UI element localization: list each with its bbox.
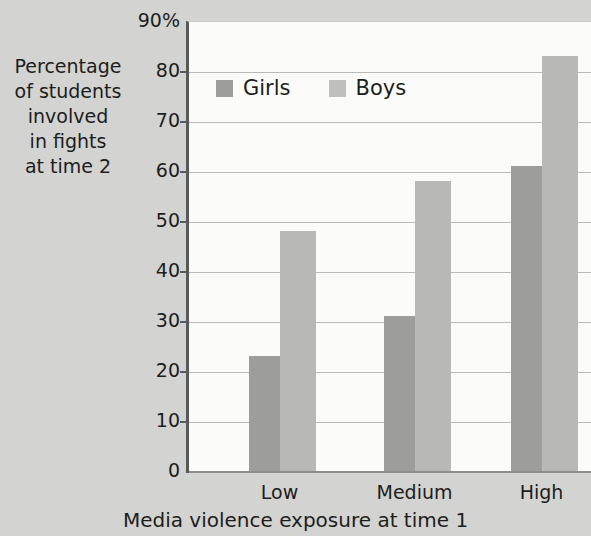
y-axis-tick-label: 50 <box>108 211 180 230</box>
y-axis-tick-label: 70 <box>108 111 180 130</box>
legend-label-girls: Girls <box>243 78 291 99</box>
legend-item-girls: Girls <box>216 78 291 99</box>
bar-chart-figure: Percentage of students involved in fight… <box>0 0 591 536</box>
y-axis-tick-label: 0 <box>108 461 180 480</box>
y-axis-tick-label: 60 <box>108 161 180 180</box>
bar-girls-high <box>511 166 542 471</box>
legend-swatch-girls-icon <box>216 80 233 97</box>
x-axis-tick-label: Low <box>226 481 333 503</box>
y-axis-tick-label: 30 <box>108 311 180 330</box>
bar-girls-medium <box>384 316 415 471</box>
bar-girls-low <box>249 356 280 471</box>
legend-swatch-boys-icon <box>329 80 346 97</box>
x-axis-tick-label: Medium <box>361 481 468 503</box>
x-axis-title: Media violence exposure at time 1 <box>0 508 591 532</box>
y-axis-tick-label: 80 <box>108 61 180 80</box>
y-axis-tick-label: 20 <box>108 361 180 380</box>
y-axis-tick-label: 10 <box>108 411 180 430</box>
legend-label-boys: Boys <box>356 78 407 99</box>
bar-boys-high <box>542 56 578 471</box>
x-axis-tick-labels: LowMediumHigh <box>186 481 591 507</box>
gridline <box>189 72 591 73</box>
bar-boys-medium <box>415 181 451 471</box>
x-axis-tick-label: High <box>488 481 591 503</box>
legend-item-boys: Boys <box>329 78 407 99</box>
y-axis-tick-label: 90% <box>108 11 180 30</box>
bar-boys-low <box>280 231 316 471</box>
x-axis-baseline <box>189 471 591 473</box>
y-axis-tick-label: 40 <box>108 261 180 280</box>
chart-legend: Girls Boys <box>216 78 406 99</box>
y-axis-tick-labels: 0102030405060708090% <box>108 0 180 536</box>
gridline <box>189 122 591 123</box>
